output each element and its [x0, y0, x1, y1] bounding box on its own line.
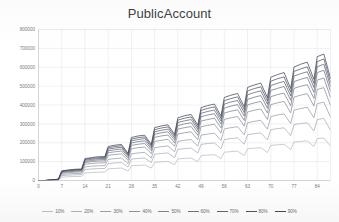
x-axis-tick-label: 56 — [222, 184, 228, 189]
legend-swatch-icon — [217, 211, 228, 212]
legend-item-label: 20% — [84, 209, 93, 214]
x-axis-tick-label: 77 — [291, 184, 297, 189]
legend-item-60pct[interactable]: 60% — [188, 209, 210, 214]
y-axis-tick-label: 700000 — [20, 46, 36, 51]
legend-swatch-icon — [158, 211, 169, 212]
x-axis-tick-label: 21 — [106, 184, 112, 189]
y-axis-tick-label: 400000 — [20, 103, 36, 108]
series-line-80pct — [39, 59, 331, 181]
legend-swatch-icon — [42, 211, 53, 212]
legend-item-label: 90% — [288, 209, 297, 214]
legend-item-label: 50% — [171, 209, 180, 214]
plot-area: 0100000200000300000400000500000600000700… — [0, 0, 339, 222]
y-axis-tick-label: 300000 — [20, 122, 36, 127]
x-axis-tick-label: 63 — [245, 184, 251, 189]
y-axis-tick-label: 500000 — [20, 84, 36, 89]
series-line-70pct — [39, 64, 331, 180]
y-axis-tick-label: 200000 — [20, 140, 36, 145]
y-axis-tick-label: 0 — [32, 178, 35, 183]
legend-swatch-icon — [188, 211, 199, 212]
chart-container: PublicAccount 01000002000003000004000005… — [0, 0, 339, 222]
legend-item-10pct[interactable]: 10% — [42, 209, 64, 214]
legend-item-label: 10% — [55, 209, 64, 214]
legend-swatch-icon — [246, 211, 257, 212]
legend-item-label: 70% — [230, 209, 239, 214]
gridlines — [39, 30, 331, 181]
legend-item-80pct[interactable]: 80% — [246, 209, 268, 214]
x-axis-tick-label: 7 — [60, 184, 63, 189]
legend-swatch-icon — [275, 211, 286, 212]
x-axis-tick-label: 35 — [152, 184, 158, 189]
legend-item-30pct[interactable]: 30% — [100, 209, 122, 214]
x-axis-tick-label: 42 — [175, 184, 181, 189]
x-axis-tick-labels: 071421283542495663707784 — [37, 184, 320, 189]
legend-item-20pct[interactable]: 20% — [71, 209, 93, 214]
legend-item-70pct[interactable]: 70% — [217, 209, 239, 214]
legend-item-label: 40% — [142, 209, 151, 214]
legend-swatch-icon — [100, 211, 111, 212]
x-axis-tick-label: 84 — [315, 184, 321, 189]
legend-swatch-icon — [71, 211, 82, 212]
x-axis-tick-label: 28 — [129, 184, 135, 189]
legend-item-label: 30% — [113, 209, 122, 214]
x-axis-tick-label: 70 — [268, 184, 274, 189]
chart-legend: 10%20%30%40%50%60%70%80%90% — [0, 209, 339, 214]
y-axis-tick-labels: 0100000200000300000400000500000600000700… — [20, 27, 36, 183]
x-axis-tick-label: 49 — [199, 184, 205, 189]
x-axis-tick-label: 14 — [82, 184, 88, 189]
y-axis-tick-label: 600000 — [20, 65, 36, 70]
legend-item-label: 80% — [259, 209, 268, 214]
series-line-50pct — [39, 78, 331, 180]
y-axis-tick-label: 800000 — [20, 27, 36, 32]
legend-item-90pct[interactable]: 90% — [275, 209, 297, 214]
x-axis-tick-label: 0 — [37, 184, 40, 189]
legend-item-label: 60% — [201, 209, 210, 214]
legend-swatch-icon — [129, 211, 140, 212]
y-axis-tick-label: 100000 — [20, 159, 36, 164]
legend-item-50pct[interactable]: 50% — [158, 209, 180, 214]
legend-item-40pct[interactable]: 40% — [129, 209, 151, 214]
